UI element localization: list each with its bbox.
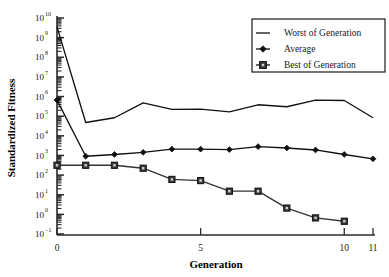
y-axis-title: Standardized Fitness bbox=[5, 78, 17, 177]
svg-text:10: 10 bbox=[35, 190, 45, 200]
data-point-marker-square-center bbox=[314, 217, 316, 219]
svg-text:4: 4 bbox=[45, 129, 48, 135]
svg-text:10: 10 bbox=[35, 111, 45, 121]
chart-container: 10−11001011021031041051061071081091010 0… bbox=[0, 0, 389, 277]
svg-text:10: 10 bbox=[35, 210, 45, 220]
x-tick-label: 5 bbox=[198, 243, 203, 253]
svg-text:9: 9 bbox=[45, 30, 48, 36]
data-point-marker-square-center bbox=[228, 190, 230, 192]
svg-text:10: 10 bbox=[35, 151, 45, 161]
data-point-marker-square-center bbox=[199, 179, 201, 181]
svg-text:5: 5 bbox=[45, 109, 48, 115]
data-point-marker-square-center bbox=[113, 164, 115, 166]
standardized-fitness-line-chart: 10−11001011021031041051061071081091010 0… bbox=[0, 0, 389, 277]
svg-text:10: 10 bbox=[35, 72, 45, 82]
svg-text:10: 10 bbox=[45, 11, 51, 17]
data-point-marker-square-center bbox=[257, 190, 259, 192]
svg-text:7: 7 bbox=[45, 70, 48, 76]
svg-text:1: 1 bbox=[45, 188, 48, 194]
legend-label: Average bbox=[284, 44, 315, 54]
svg-text:10: 10 bbox=[35, 33, 45, 43]
x-tick-label: 0 bbox=[55, 243, 60, 253]
svg-text:10: 10 bbox=[35, 13, 45, 23]
data-point-marker-square-center bbox=[85, 164, 87, 166]
data-point-marker-square-center bbox=[56, 164, 58, 166]
svg-text:10: 10 bbox=[35, 229, 45, 239]
svg-text:8: 8 bbox=[45, 50, 48, 56]
svg-text:0: 0 bbox=[45, 207, 48, 213]
data-point-marker-square-center bbox=[171, 178, 173, 180]
x-tick-label: 10 bbox=[340, 243, 350, 253]
x-tick-label: 11 bbox=[368, 243, 377, 253]
legend-marker-square-center bbox=[262, 64, 264, 66]
data-point-marker-square-center bbox=[343, 220, 345, 222]
svg-text:6: 6 bbox=[45, 89, 48, 95]
svg-text:−1: −1 bbox=[45, 227, 51, 233]
svg-text:10: 10 bbox=[35, 92, 45, 102]
legend-label: Worst of Generation bbox=[284, 28, 362, 38]
svg-text:10: 10 bbox=[35, 170, 45, 180]
data-point-marker-square-center bbox=[142, 167, 144, 169]
svg-text:10: 10 bbox=[35, 131, 45, 141]
legend-label: Best of Generation bbox=[284, 60, 356, 70]
svg-text:3: 3 bbox=[45, 148, 48, 154]
svg-text:10: 10 bbox=[35, 52, 45, 62]
data-point-marker-square-center bbox=[286, 207, 288, 209]
x-axis-title: Generation bbox=[189, 258, 242, 270]
svg-text:2: 2 bbox=[45, 168, 48, 174]
